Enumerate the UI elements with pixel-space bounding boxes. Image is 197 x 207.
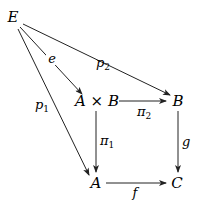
label-e: e bbox=[48, 51, 56, 66]
node-A: A bbox=[89, 174, 102, 192]
commutative-diagram: E A × B B A C e p2 p1 π2 π1 g f bbox=[0, 0, 197, 207]
node-B: B bbox=[171, 92, 183, 110]
node-E: E bbox=[7, 8, 19, 26]
label-p2: p2 bbox=[96, 55, 110, 72]
label-pi1: π1 bbox=[99, 133, 114, 150]
label-p1: p1 bbox=[35, 97, 49, 114]
node-C: C bbox=[171, 174, 183, 192]
label-pi2: π2 bbox=[136, 104, 151, 121]
label-g: g bbox=[182, 134, 190, 149]
node-AxB: A × B bbox=[73, 92, 119, 110]
label-f: f bbox=[132, 185, 140, 200]
